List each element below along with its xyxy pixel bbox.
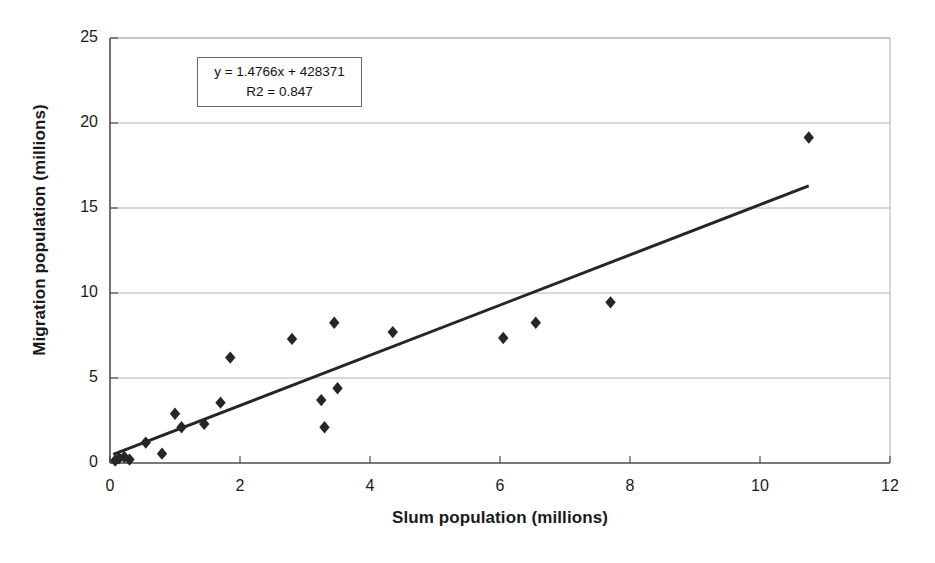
data-point [388,326,398,338]
x-tick-label-0: 0 [90,477,130,495]
trendline [113,186,809,455]
r-squared-value: R2 = 0.847 [198,82,361,102]
plot-area [0,0,935,563]
y-tick-label-10: 10 [58,283,98,301]
y-tick-label-25: 25 [58,28,98,46]
x-tick-label-4: 4 [350,477,390,495]
data-point [176,421,186,433]
data-point [531,317,541,329]
data-point [319,421,329,433]
x-tick-label-10: 10 [740,477,780,495]
data-point [316,394,326,406]
y-tick-label-15: 15 [58,198,98,216]
trendline-equation-box: y = 1.4766x + 428371 R2 = 0.847 [197,57,362,107]
data-point [329,317,339,329]
data-point [332,382,342,394]
x-tick-label-8: 8 [610,477,650,495]
y-tick-label-20: 20 [58,113,98,131]
data-point [170,408,180,420]
y-tick-label-5: 5 [58,368,98,386]
x-tick-label-12: 12 [870,477,910,495]
data-point [215,396,225,408]
data-point [225,351,235,363]
x-axis-title: Slum population (millions) [110,508,890,528]
data-point [498,332,508,344]
data-point [605,296,615,308]
x-tick-label-6: 6 [480,477,520,495]
y-axis-title: Migration population (millions) [30,20,50,440]
scatter-chart: Migration population (millions) Slum pop… [0,0,935,563]
data-point [141,436,151,448]
trendline-path [113,186,809,455]
y-axis-ticks [110,38,118,463]
y-tick-label-0: 0 [58,453,98,471]
data-point [804,131,814,143]
regression-equation: y = 1.4766x + 428371 [198,62,361,82]
x-axis-ticks [110,456,890,463]
x-tick-label-2: 2 [220,477,260,495]
data-point [287,333,297,345]
data-point [157,447,167,459]
